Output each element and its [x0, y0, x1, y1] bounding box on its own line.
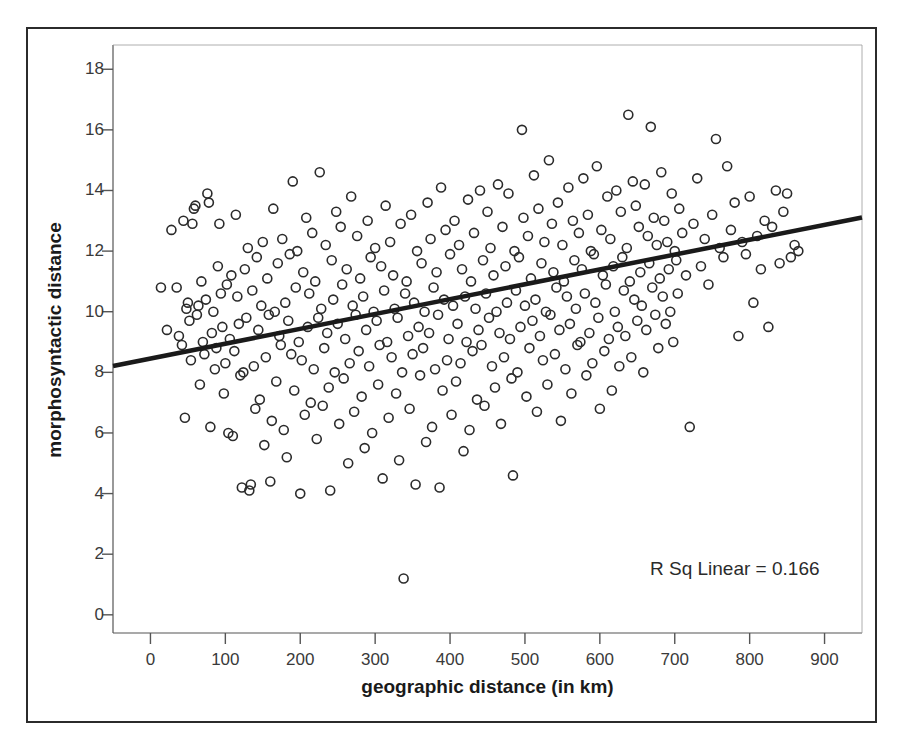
scatter-point	[669, 338, 678, 347]
scatter-point	[462, 338, 471, 347]
scatter-point	[255, 395, 264, 404]
scatter-point	[664, 265, 673, 274]
scatter-point	[487, 362, 496, 371]
scatter-point	[257, 301, 266, 310]
scatter-point	[341, 335, 350, 344]
scatter-point	[663, 238, 672, 247]
scatter-point	[636, 268, 645, 277]
scatter-point	[606, 234, 615, 243]
scatter-point	[666, 307, 675, 316]
scatter-point	[555, 325, 564, 334]
scatter-point	[240, 265, 249, 274]
scatter-point	[248, 286, 257, 295]
scatter-plot-canvas	[0, 0, 900, 750]
scatter-point	[764, 322, 773, 331]
scatter-point	[449, 301, 458, 310]
scatter-point	[678, 228, 687, 237]
scatter-point	[501, 262, 510, 271]
scatter-point	[783, 189, 792, 198]
scatter-point	[422, 438, 431, 447]
scatter-point	[177, 341, 186, 350]
scatter-point	[465, 425, 474, 434]
scatter-point	[689, 219, 698, 228]
scatter-point	[621, 331, 630, 340]
scatter-point	[517, 125, 526, 134]
scatter-point	[402, 277, 411, 286]
scatter-point	[429, 283, 438, 292]
scatter-point	[723, 162, 732, 171]
scatter-point	[197, 277, 206, 286]
scatter-point	[467, 277, 476, 286]
scatter-point	[519, 213, 528, 222]
scatter-point	[179, 216, 188, 225]
scatter-point	[603, 192, 612, 201]
scatter-point	[649, 213, 658, 222]
scatter-point	[249, 362, 258, 371]
x-tick-label: 700	[661, 650, 689, 670]
scatter-point	[380, 286, 389, 295]
scatter-point	[426, 234, 435, 243]
scatter-point	[745, 192, 754, 201]
y-tick-label: 4	[60, 484, 104, 504]
scatter-point	[568, 216, 577, 225]
scatter-point	[562, 292, 571, 301]
scatter-point	[522, 392, 531, 401]
scatter-point	[600, 347, 609, 356]
scatter-point	[353, 231, 362, 240]
scatter-point	[395, 456, 404, 465]
y-tick-label: 6	[60, 423, 104, 443]
scatter-point	[741, 250, 750, 259]
scatter-point	[768, 222, 777, 231]
scatter-point	[537, 259, 546, 268]
x-tick-label: 800	[735, 650, 763, 670]
scatter-point	[435, 483, 444, 492]
scatter-point	[413, 247, 422, 256]
scatter-point	[345, 359, 354, 368]
scatter-point	[296, 489, 305, 498]
scatter-point	[693, 174, 702, 183]
scatter-point	[535, 331, 544, 340]
scatter-point	[628, 177, 637, 186]
scatter-point	[195, 380, 204, 389]
scatter-point	[260, 441, 269, 450]
scatter-point	[711, 134, 720, 143]
scatter-point	[437, 183, 446, 192]
scatter-point	[392, 389, 401, 398]
scatter-point	[531, 295, 540, 304]
scatter-point	[612, 186, 621, 195]
scatter-point	[640, 180, 649, 189]
scatter-point	[188, 219, 197, 228]
scatter-point	[446, 250, 455, 259]
scatter-point	[625, 277, 634, 286]
scatter-point	[661, 319, 670, 328]
scatter-point	[432, 268, 441, 277]
x-tick-label: 500	[511, 650, 539, 670]
scatter-point	[282, 453, 291, 462]
scatter-point	[667, 189, 676, 198]
scatter-point	[456, 359, 465, 368]
scatter-point	[675, 204, 684, 213]
scatter-point	[347, 192, 356, 201]
scatter-point	[624, 110, 633, 119]
scatter-point	[278, 234, 287, 243]
scatter-point	[318, 401, 327, 410]
scatter-point	[567, 389, 576, 398]
scatter-point	[655, 274, 664, 283]
scatter-point	[579, 174, 588, 183]
scatter-point	[550, 350, 559, 359]
r-squared-annotation: R Sq Linear = 0.166	[650, 558, 820, 580]
scatter-point	[308, 228, 317, 237]
scatter-point	[354, 347, 363, 356]
scatter-point	[299, 268, 308, 277]
scatter-point	[771, 186, 780, 195]
scatter-point	[591, 298, 600, 307]
scatter-point	[423, 198, 432, 207]
scatter-point	[505, 335, 514, 344]
scatter-point	[183, 298, 192, 307]
scatter-point	[450, 216, 459, 225]
scatter-point	[335, 419, 344, 428]
scatter-point	[660, 216, 669, 225]
scatter-point	[416, 371, 425, 380]
scatter-point	[658, 292, 667, 301]
scatter-point	[389, 271, 398, 280]
